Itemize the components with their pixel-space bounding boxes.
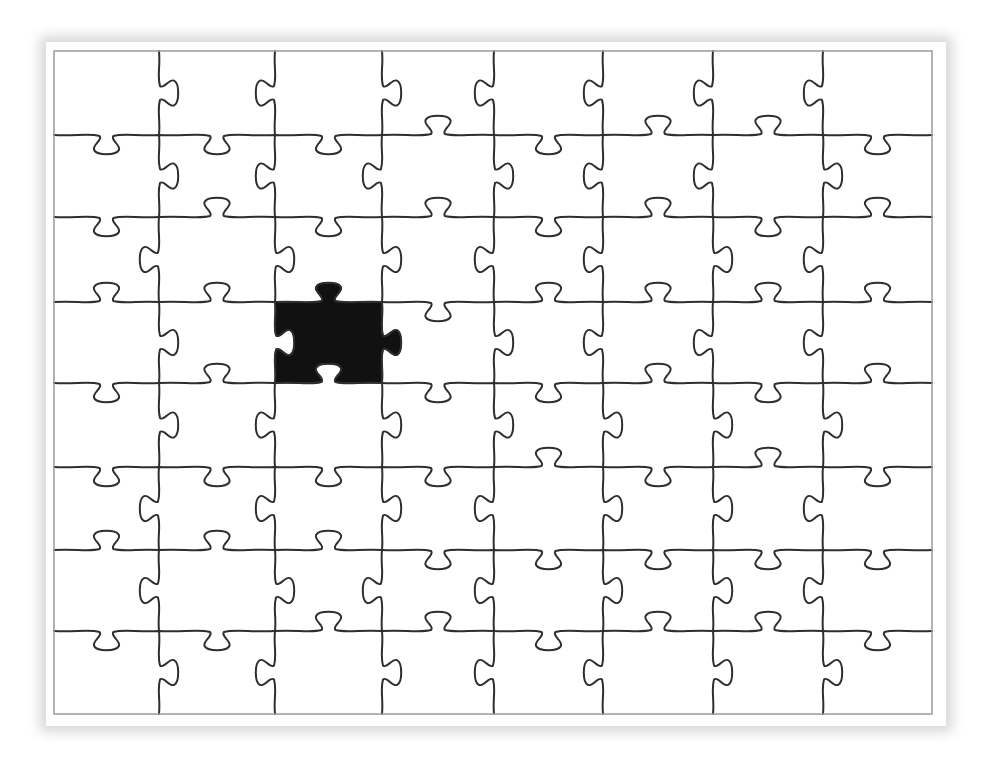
puzzle-stage: Jigsaw puzzle with one black piece bbox=[0, 0, 992, 764]
jigsaw-puzzle-board bbox=[0, 0, 992, 764]
